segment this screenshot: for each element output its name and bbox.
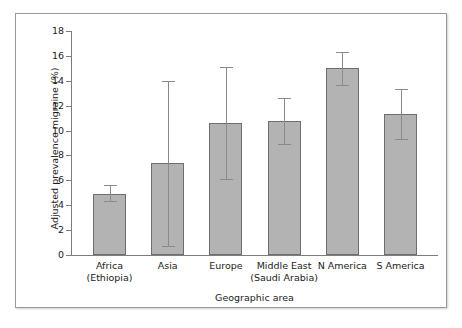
bar <box>326 68 359 255</box>
error-bar-cap-lower <box>104 201 117 202</box>
x-category-label-line2: (Ethiopia) <box>50 272 170 284</box>
error-bar-line <box>401 89 402 139</box>
error-bar-cap-lower <box>278 144 291 145</box>
bar <box>93 194 126 255</box>
error-bar-cap-upper <box>162 81 175 82</box>
error-bar-line <box>110 185 111 201</box>
error-bar-cap-upper <box>278 98 291 99</box>
x-category-label-line1: S America <box>376 260 424 271</box>
y-tick-label: 12 <box>52 101 64 110</box>
error-bar-line <box>226 67 227 179</box>
error-bar-cap-lower <box>220 179 233 180</box>
y-tick-mark <box>66 230 71 231</box>
y-tick-mark <box>66 106 71 107</box>
error-bar-cap-lower <box>336 85 349 86</box>
y-tick-label: 4 <box>58 200 64 209</box>
y-tick-mark <box>66 81 71 82</box>
x-axis-title: Geographic area <box>71 292 438 303</box>
y-tick-mark <box>66 155 71 156</box>
y-tick-label: 6 <box>58 175 64 184</box>
y-tick-label: 16 <box>52 51 64 60</box>
y-tick-label: 18 <box>52 26 64 35</box>
error-bar-cap-lower <box>395 139 408 140</box>
error-bar-cap-upper <box>104 185 117 186</box>
error-bar-cap-upper <box>336 52 349 53</box>
y-tick-label: 10 <box>52 126 64 135</box>
figure-container: Adjusted prevalence migraine (%) Geograp… <box>0 0 462 328</box>
error-bar-cap-lower <box>162 246 175 247</box>
x-axis-line <box>71 255 438 256</box>
y-tick-mark <box>66 180 71 181</box>
y-tick-label: 8 <box>58 150 64 159</box>
error-bar-line <box>284 98 285 144</box>
error-bar-cap-upper <box>395 89 408 90</box>
y-tick-mark <box>66 205 71 206</box>
y-tick-label: 14 <box>52 76 64 85</box>
y-tick-label: 0 <box>58 250 64 259</box>
y-tick-mark <box>66 131 71 132</box>
error-bar-cap-upper <box>220 67 233 68</box>
y-tick-mark <box>66 56 71 57</box>
plot-area: Adjusted prevalence migraine (%) Geograp… <box>0 0 462 328</box>
y-tick-label: 2 <box>58 225 64 234</box>
y-tick-mark <box>66 255 71 256</box>
y-tick-mark <box>66 31 71 32</box>
error-bar-line <box>168 81 169 247</box>
x-category-label-line2: (Saudi Arabia) <box>224 272 344 284</box>
y-axis-line <box>71 31 72 256</box>
x-category-label: S America <box>341 260 461 272</box>
error-bar-line <box>342 52 343 85</box>
